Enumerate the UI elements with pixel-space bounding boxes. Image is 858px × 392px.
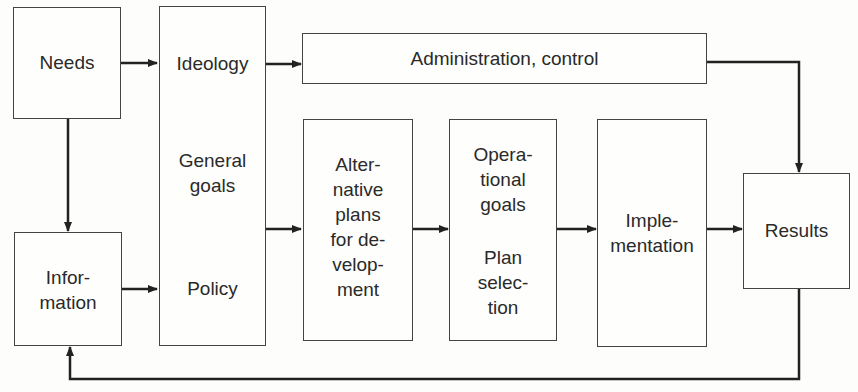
node-plan-selection-label: Plan selec- tion [450,245,556,320]
node-alternative-plans-label: Alter- native plans for de- velop- ment [304,152,412,302]
node-information: Infor- mation [14,232,122,346]
node-policy-column: Ideology General goals Policy [159,6,266,346]
node-ideology-label: Ideology [160,51,265,76]
node-results: Results [743,173,850,289]
node-general-goals-label: General goals [160,148,265,198]
node-needs: Needs [13,7,121,119]
node-implementation-label: Imple- mentation [598,208,706,258]
arrow-administration-to-results [707,62,799,172]
node-alternative-plans: Alter- native plans for de- velop- ment [303,119,413,341]
node-results-label: Results [744,218,849,243]
node-implementation: Imple- mentation [597,119,707,347]
node-operational: Opera- tional goals Plan selec- tion [449,119,557,341]
node-operational-goals-label: Opera- tional goals [450,142,556,217]
node-information-label: Infor- mation [15,265,121,315]
node-needs-label: Needs [14,50,120,75]
node-policy-label: Policy [160,276,265,301]
node-administration: Administration, control [302,33,707,84]
node-administration-label: Administration, control [303,46,706,71]
